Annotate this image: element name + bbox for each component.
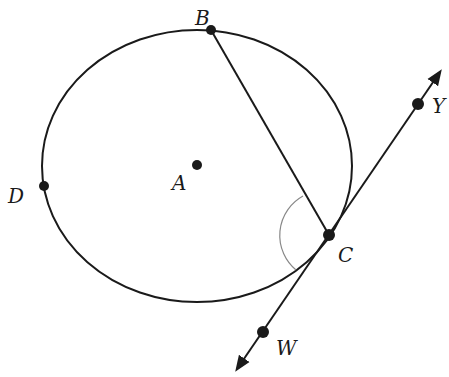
label-w: W: [276, 336, 298, 360]
label-d: D: [7, 184, 24, 208]
tangent-line-wy: [237, 72, 440, 369]
point-w: [257, 326, 269, 338]
geometry-diagram: B A D C Y W: [0, 0, 449, 377]
chord-bc: [211, 30, 329, 235]
point-d: [39, 181, 49, 191]
label-y: Y: [432, 94, 447, 118]
point-a: [192, 160, 202, 170]
label-c: C: [338, 243, 353, 267]
angle-arc-c: [280, 196, 303, 270]
label-b: B: [194, 6, 210, 30]
label-a: A: [170, 171, 186, 195]
point-y: [412, 98, 424, 110]
point-c: [323, 229, 335, 241]
